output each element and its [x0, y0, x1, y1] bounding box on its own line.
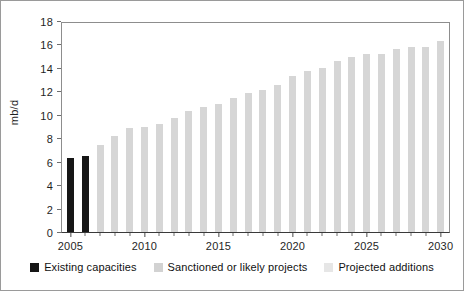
x-tick-label: 2025 [354, 240, 379, 252]
y-tick-label: 14 [40, 63, 53, 74]
x-tick-mark [277, 233, 278, 236]
legend-swatch-icon [154, 263, 163, 272]
x-tick-2023 [336, 233, 337, 236]
bar-slot [404, 22, 419, 232]
x-tick-2012 [174, 233, 175, 236]
bar-2018 [259, 90, 266, 232]
x-tick-2018 [262, 233, 263, 236]
bar-slot [359, 22, 374, 232]
bar-series-container [61, 22, 450, 232]
x-tick-mark [129, 233, 130, 236]
bar-2010 [141, 127, 148, 233]
y-tick-label: 4 [47, 181, 53, 192]
x-tick-label: 2020 [280, 240, 305, 252]
x-tick-2021 [307, 233, 308, 236]
bar-2019 [274, 85, 281, 232]
x-tick-mark [322, 233, 323, 236]
bar-2030 [437, 41, 444, 232]
bar-slot [226, 22, 241, 232]
y-tick-label: 6 [47, 157, 53, 168]
x-tick-mark [307, 233, 308, 236]
bar-slot [389, 22, 404, 232]
x-tick-2028 [410, 233, 411, 236]
chart-legend: Existing capacitiesSanctioned or likely … [0, 261, 464, 273]
x-tick-mark [248, 233, 249, 236]
bar-slot [167, 22, 182, 232]
x-tick-mark [85, 233, 86, 236]
x-tick-mark [366, 233, 367, 237]
y-tick-label: 2 [47, 204, 53, 215]
bar-2014 [200, 107, 207, 232]
y-tick-label: 16 [40, 40, 53, 51]
y-tick-label: 12 [40, 87, 53, 98]
y-axis: 024681012141618 [0, 22, 61, 233]
x-tick-mark [396, 233, 397, 236]
bar-2006 [82, 156, 89, 232]
y-tick-label: 18 [40, 17, 53, 28]
x-tick-2025: 2025 [354, 233, 379, 252]
x-tick-mark [440, 233, 441, 237]
x-tick-2006 [85, 233, 86, 236]
x-tick-2016 [233, 233, 234, 236]
x-tick-2009 [129, 233, 130, 236]
plot-area [61, 22, 450, 233]
bar-slot [78, 22, 93, 232]
bar-2017 [245, 93, 252, 232]
legend-label: Projected additions [338, 261, 433, 273]
x-tick-2020: 2020 [280, 233, 305, 252]
x-tick-mark [70, 233, 71, 237]
bar-slot [196, 22, 211, 232]
x-tick-2013 [188, 233, 189, 236]
bar-slot [419, 22, 434, 232]
bar-2028 [408, 47, 415, 232]
x-tick-mark [425, 233, 426, 236]
x-tick-2017 [248, 233, 249, 236]
bar-2009 [126, 128, 133, 232]
bar-slot [330, 22, 345, 232]
bar-2007 [97, 145, 104, 232]
bar-2021 [304, 71, 311, 232]
y-tick-label: 8 [47, 134, 53, 145]
legend-item-2[interactable]: Sanctioned or likely projects [154, 261, 308, 273]
x-tick-mark [336, 233, 337, 236]
legend-item-3[interactable]: Projected additions [324, 261, 433, 273]
x-tick-label: 2030 [428, 240, 453, 252]
bar-slot [344, 22, 359, 232]
bar-slot [374, 22, 389, 232]
bar-slot [256, 22, 271, 232]
bar-2022 [319, 68, 326, 232]
bar-slot [300, 22, 315, 232]
x-tick-2024 [351, 233, 352, 236]
x-tick-mark [144, 233, 145, 237]
x-tick-label: 2010 [132, 240, 157, 252]
bar-slot [122, 22, 137, 232]
x-tick-2027 [396, 233, 397, 236]
legend-swatch-icon [324, 263, 333, 272]
bar-2020 [289, 76, 296, 232]
bar-slot [152, 22, 167, 232]
bar-2011 [156, 124, 163, 232]
bar-2029 [422, 47, 429, 232]
x-tick-2030: 2030 [428, 233, 453, 252]
bar-2005 [67, 158, 74, 232]
x-tick-mark [218, 233, 219, 237]
bar-2025 [363, 54, 370, 232]
x-tick-mark [159, 233, 160, 236]
bar-2023 [334, 61, 341, 232]
legend-label: Sanctioned or likely projects [168, 261, 308, 273]
y-tick-label: 10 [40, 110, 53, 121]
x-tick-mark [114, 233, 115, 236]
bar-slot [63, 22, 78, 232]
x-tick-2015: 2015 [206, 233, 231, 252]
x-tick-2010: 2010 [132, 233, 157, 252]
bar-slot [182, 22, 197, 232]
legend-item-1[interactable]: Existing capacities [30, 261, 136, 273]
bar-2026 [378, 54, 385, 232]
bar-slot [315, 22, 330, 232]
x-tick-2026 [381, 233, 382, 236]
bar-2008 [111, 136, 118, 232]
bar-slot [241, 22, 256, 232]
bar-slot [270, 22, 285, 232]
bar-chart-figure: mb/d 024681012141618 2005201020152020202… [0, 0, 464, 291]
x-tick-mark [233, 233, 234, 236]
